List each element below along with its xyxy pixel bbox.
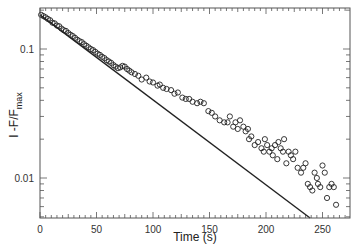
y-axis-title: I -F/Fmax — [7, 92, 24, 138]
x-tick-label: 0 — [37, 224, 43, 235]
data-point — [293, 149, 298, 154]
x-tick-label: 50 — [91, 224, 103, 235]
data-point — [172, 91, 177, 96]
data-point — [255, 139, 260, 144]
data-point — [252, 142, 257, 147]
data-points — [39, 12, 339, 207]
data-point — [180, 95, 185, 100]
data-point — [194, 101, 199, 106]
data-point — [198, 99, 203, 104]
y-tick-label: 0.1 — [20, 44, 34, 55]
x-tick-label: 250 — [314, 224, 331, 235]
data-point — [201, 101, 206, 106]
data-point — [213, 114, 218, 119]
data-point — [272, 142, 277, 147]
data-point — [147, 79, 152, 84]
x-tick-label: 200 — [258, 224, 275, 235]
data-point — [322, 170, 327, 175]
data-point — [295, 165, 300, 170]
data-point — [262, 137, 267, 142]
data-point — [284, 161, 289, 166]
data-point — [175, 90, 180, 95]
data-point — [314, 175, 319, 180]
data-point — [161, 85, 166, 90]
axis-tick-labels: 0501001502002500.10.01 — [15, 44, 332, 236]
data-point — [320, 163, 325, 168]
plot-frame — [40, 8, 350, 218]
x-axis-title: Time (s) — [173, 230, 217, 244]
data-point — [281, 137, 286, 142]
chart: 0501001502002500.10.01 Time (s) I -F/Fma… — [0, 0, 358, 250]
data-point — [275, 157, 280, 162]
data-point — [303, 161, 308, 166]
data-point — [333, 202, 338, 207]
fit-line — [40, 15, 310, 218]
y-tick-label: 0.01 — [15, 173, 35, 184]
data-point — [227, 114, 232, 119]
data-point — [237, 118, 242, 123]
data-point — [324, 195, 329, 200]
axis-ticks — [40, 8, 350, 218]
x-tick-label: 100 — [145, 224, 162, 235]
data-point — [270, 153, 275, 158]
data-point — [312, 170, 317, 175]
data-point — [276, 139, 281, 144]
data-point — [298, 170, 303, 175]
data-point — [235, 126, 240, 131]
data-point — [225, 120, 230, 125]
data-point — [187, 96, 192, 101]
